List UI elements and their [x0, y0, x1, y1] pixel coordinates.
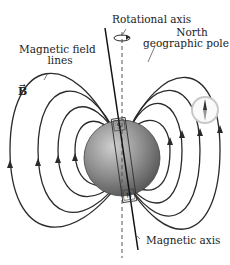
field-lines-label-2: lines — [19, 55, 101, 66]
svg-text:N: N — [126, 191, 132, 200]
north-pole-label-2: geographic pole — [143, 38, 229, 49]
compass-icon — [192, 97, 218, 123]
magnetic-axis-label: Magnetic axis — [146, 235, 220, 246]
earth-magnetic-field-diagram: S N Rotational axis North geographic pol… — [0, 0, 230, 265]
b-vector-label: → B — [18, 85, 27, 98]
rotational-axis-label: Rotational axis — [112, 14, 191, 25]
